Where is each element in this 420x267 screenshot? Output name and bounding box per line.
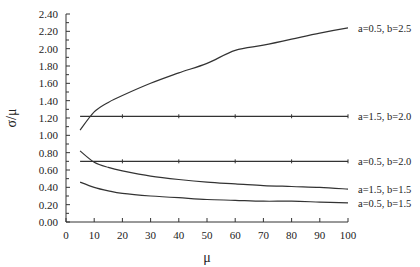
y-tick-label: 0.20 bbox=[39, 199, 59, 211]
y-tick-label: 1.20 bbox=[39, 112, 59, 124]
x-tick-label: 20 bbox=[117, 229, 129, 241]
x-tick-label: 90 bbox=[314, 229, 326, 241]
y-tick-label: 2.20 bbox=[39, 25, 59, 37]
x-tick-label: 0 bbox=[63, 229, 69, 241]
y-tick-label: 1.40 bbox=[39, 95, 59, 107]
line-chart: 0.000.200.400.600.801.001.201.401.601.80… bbox=[0, 0, 420, 267]
series-line-a-0-5-b-2-5 bbox=[80, 28, 348, 130]
x-tick-label: 100 bbox=[340, 229, 357, 241]
x-tick-label: 50 bbox=[202, 229, 214, 241]
series-line-a-1-5-b-1-5 bbox=[80, 151, 348, 189]
series-label-a-0-5-b-2-5: a=0.5, b=2.5 bbox=[358, 23, 411, 34]
y-tick-label: 0.00 bbox=[39, 216, 59, 228]
series-label-a-0-5-b-2-0: a=0.5, b=2.0 bbox=[358, 156, 411, 167]
x-tick-label: 40 bbox=[173, 229, 185, 241]
y-tick-label: 0.60 bbox=[39, 164, 59, 176]
y-tick-label: 2.00 bbox=[39, 43, 59, 55]
y-tick-label: 0.80 bbox=[39, 147, 59, 159]
axes: 0.000.200.400.600.801.001.201.401.601.80… bbox=[39, 8, 357, 241]
series-label-a-0-5-b-1-5: a=0.5, b=1.5 bbox=[358, 198, 411, 209]
y-tick-label: 0.40 bbox=[39, 181, 59, 193]
x-tick-label: 10 bbox=[89, 229, 101, 241]
x-tick-label: 80 bbox=[286, 229, 298, 241]
x-tick-label: 30 bbox=[145, 229, 157, 241]
y-tick-label: 1.60 bbox=[39, 77, 59, 89]
x-tick-label: 60 bbox=[230, 229, 242, 241]
series-line-a-0-5-b-1-5 bbox=[80, 182, 348, 203]
series-label-a-1-5-b-2-0: a=1.5, b=2.0 bbox=[358, 111, 411, 122]
y-axis-title: σ/μ bbox=[4, 109, 19, 128]
y-tick-label: 1.00 bbox=[39, 129, 59, 141]
x-tick-label: 70 bbox=[258, 229, 270, 241]
series-label-a-1-5-b-1-5: a=1.5, b=1.5 bbox=[358, 184, 411, 195]
x-axis-title: μ bbox=[203, 250, 211, 265]
series-group: a=0.5, b=2.5a=1.5, b=2.0a=0.5, b=2.0a=1.… bbox=[80, 23, 411, 209]
y-tick-label: 1.80 bbox=[39, 60, 59, 72]
y-tick-label: 2.40 bbox=[39, 8, 59, 20]
